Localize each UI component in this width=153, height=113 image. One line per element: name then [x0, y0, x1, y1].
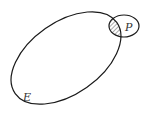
set-p-label: P: [124, 21, 133, 34]
venn-diagram: E P: [0, 0, 153, 113]
set-e-label: E: [22, 91, 31, 104]
